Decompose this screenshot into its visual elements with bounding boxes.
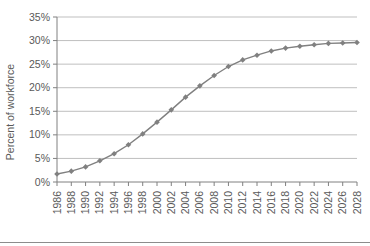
- y-axis-tick-label: 15%: [29, 105, 50, 117]
- data-point-marker: [68, 168, 74, 174]
- series-markers: [54, 40, 360, 177]
- y-axis-tick-label: 5%: [35, 152, 50, 164]
- x-axis-tick-label: 2008: [208, 191, 220, 215]
- x-axis-tick-label: 1986: [51, 191, 63, 215]
- bottom-divider: [0, 242, 370, 243]
- y-axis-tick-labels: 0%5%10%15%20%25%30%35%: [29, 11, 50, 188]
- x-axis-tick-label: 2016: [265, 191, 277, 215]
- y-axis-tick-label: 0%: [35, 176, 50, 188]
- x-axis-tick-label: 2006: [193, 191, 205, 215]
- x-axis-ticks: [57, 182, 357, 186]
- x-axis-tick-label: 2026: [336, 191, 348, 215]
- data-point-marker: [283, 45, 289, 51]
- data-point-marker: [83, 164, 89, 170]
- data-point-marker: [311, 42, 317, 48]
- x-axis-tick-label: 2000: [151, 191, 163, 215]
- y-axis-title: Percent of workforce: [4, 64, 16, 160]
- x-axis-tick-label: 2024: [322, 191, 334, 215]
- gridlines: [57, 17, 357, 158]
- x-axis-tick-label: 2004: [179, 191, 191, 215]
- data-point-marker: [254, 52, 260, 58]
- y-axis-tick-label: 10%: [29, 128, 50, 140]
- series-line-percent-of-workforce: [57, 42, 357, 174]
- x-axis-tick-label: 2012: [236, 191, 248, 215]
- y-axis-tick-label: 25%: [29, 58, 50, 70]
- x-axis-tick-label: 1996: [122, 191, 134, 215]
- x-axis-tick-label: 2028: [351, 191, 363, 215]
- x-axis-tick-label: 2014: [251, 191, 263, 215]
- x-axis-tick-label: 1988: [65, 191, 77, 215]
- data-point-marker: [297, 43, 303, 49]
- x-axis-tick-label: 2018: [279, 191, 291, 215]
- data-point-marker: [240, 57, 246, 63]
- data-point-marker: [326, 41, 332, 47]
- data-point-marker: [54, 171, 60, 177]
- x-axis-tick-label: 1992: [93, 191, 105, 215]
- y-axis-ticks: [53, 17, 57, 182]
- x-axis-tick-label: 1998: [136, 191, 148, 215]
- x-axis-tick-label: 2022: [308, 191, 320, 215]
- line-chart: 0%5%10%15%20%25%30%35% 19861988199019921…: [0, 0, 370, 246]
- x-axis-tick-label: 1994: [108, 191, 120, 215]
- y-axis-tick-label: 35%: [29, 11, 50, 23]
- x-axis-tick-labels: 1986198819901992199419961998200020022004…: [51, 191, 363, 215]
- chart-container: 0%5%10%15%20%25%30%35% 19861988199019921…: [0, 0, 370, 246]
- x-axis-tick-label: 2010: [222, 191, 234, 215]
- x-axis-tick-label: 2020: [293, 191, 305, 215]
- x-axis-tick-label: 1990: [79, 191, 91, 215]
- data-point-marker: [268, 48, 274, 54]
- y-axis-tick-label: 20%: [29, 81, 50, 93]
- y-axis-tick-label: 30%: [29, 34, 50, 46]
- x-axis-tick-label: 2002: [165, 191, 177, 215]
